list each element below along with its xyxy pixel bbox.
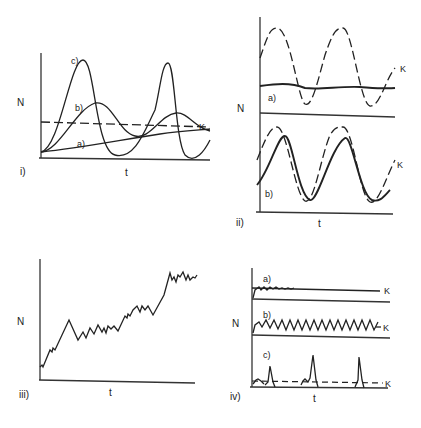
panel-ii-b-n-curve (257, 136, 390, 201)
panel-i-curve-b-label: b) (75, 103, 83, 113)
panel-ii: a) K b) K N t ii) (236, 17, 406, 229)
panel-iv: a) K b) K c) K N t iv) (230, 268, 391, 404)
panel-iv-x-label: t (313, 393, 316, 404)
panel-i-y-label: N (17, 97, 24, 108)
panel-iv-a-x-axis (252, 299, 390, 302)
panel-ii-b-k-label: K (397, 160, 403, 170)
panel-iii-curve (40, 272, 197, 367)
panel-i-curve-c-label: c) (71, 56, 79, 66)
panel-iv-c-k-line (252, 381, 383, 383)
panel-i: c) b) a) K N t i) (17, 53, 210, 178)
panel-i-k-line (41, 122, 210, 127)
panel-ii-a-k-label: K (400, 64, 406, 74)
panel-ii-b-label: b) (265, 189, 273, 199)
panel-iv-b-x-axis (252, 335, 390, 338)
panel-ii-a-k-curve (260, 28, 395, 106)
panel-iv-b-curve (253, 320, 378, 333)
panel-iv-x-axis (250, 387, 388, 388)
panel-iv-y-label: N (232, 318, 239, 329)
panel-iii: N t iii) (17, 259, 197, 400)
panel-iv-c-initial-bump (253, 379, 264, 384)
panel-ii-label: ii) (236, 217, 244, 228)
panel-ii-a-label: a) (268, 93, 276, 103)
figure-canvas: c) b) a) K N t i) a) K b) K N t ii) N t … (0, 0, 421, 428)
panel-i-k-label: K (199, 122, 205, 132)
panel-i-curve-b (41, 103, 210, 152)
panel-iii-y-label: N (17, 316, 24, 327)
panel-i-x-axis (39, 158, 210, 160)
panel-ii-x-axis (256, 212, 393, 214)
panel-iv-a-k-label: K (384, 286, 390, 296)
panel-i-curve-a-label: a) (77, 139, 85, 149)
panel-i-curve-a (41, 129, 210, 152)
panel-iv-b-label: b) (263, 310, 271, 320)
panel-iii-x-axis (39, 380, 195, 383)
panel-i-label: i) (20, 166, 26, 177)
panel-ii-y-label: N (237, 103, 244, 114)
panel-iv-c-k-label: K (385, 379, 391, 389)
panel-iv-label: iv) (230, 391, 241, 402)
panel-iv-c-spike-3 (355, 357, 364, 388)
panel-ii-a-x-axis (260, 113, 395, 117)
panel-iii-x-label: t (109, 387, 112, 398)
panel-iv-c-spike-1 (265, 366, 275, 387)
panel-i-x-label: t (125, 167, 128, 178)
panel-ii-b-k-curve (257, 127, 395, 202)
panel-iv-a-label: a) (263, 274, 271, 284)
panel-ii-a-n-curve (260, 84, 395, 89)
panel-ii-x-label: t (318, 218, 321, 229)
panel-iii-label: iii) (19, 389, 29, 400)
panel-iv-c-label: c) (263, 350, 271, 360)
panel-i-curve-c (41, 60, 210, 158)
panel-iv-b-k-label: K (383, 323, 389, 333)
